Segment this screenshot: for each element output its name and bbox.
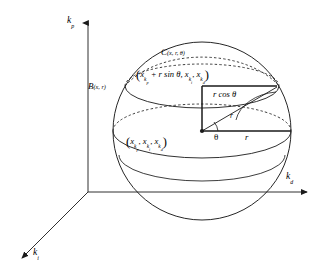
k-i-axis-line <box>22 192 88 258</box>
angle-theta-label: θ <box>214 133 218 142</box>
radius-slant-label: r <box>230 112 233 120</box>
r-cos-theta-label: r cos θ <box>213 90 236 99</box>
circle-C-label: C(x, r, θ) <box>161 48 185 57</box>
lower-latitude-arc <box>119 155 285 181</box>
center-coordinate-label: (xkp, xki, xkd) <box>126 136 167 149</box>
center-point-dot <box>200 129 204 133</box>
figure-canvas: kp kd ki C(x, r, θ) B(x, r) (xkp + r sin… <box>0 0 329 278</box>
angle-theta-arc <box>214 122 218 131</box>
k-d-axis-label: kd <box>286 172 293 182</box>
k-i-axis-label: ki <box>33 248 39 258</box>
k-p-axis-label: kp <box>67 16 74 26</box>
radius-horizontal-label: r <box>245 133 248 142</box>
sphere-B-label: B(x, r) <box>88 82 106 91</box>
top-coordinate-label: (xkp + r sin θ, xki, xkd) <box>136 69 209 82</box>
